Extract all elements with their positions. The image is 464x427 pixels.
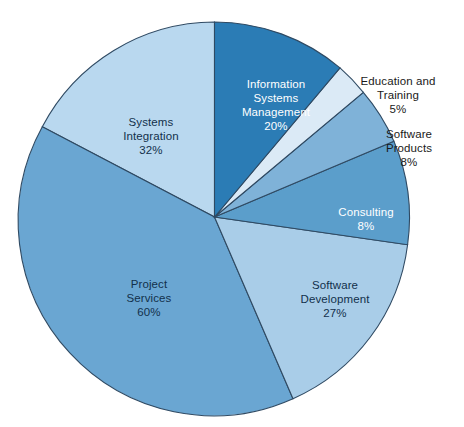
pie-chart: Information Systems Management 20% Educa… xyxy=(0,0,464,427)
pie-slices xyxy=(18,22,409,416)
pie-chart-canvas xyxy=(0,0,464,427)
